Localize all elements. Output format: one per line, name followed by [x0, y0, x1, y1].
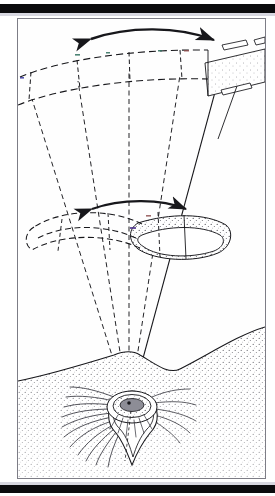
figure-artwork	[18, 19, 265, 478]
upper-sweep-arrow	[91, 29, 214, 40]
burrow-cup-inner	[120, 399, 144, 412]
far-band-divider-2	[77, 60, 80, 89]
figure-page	[0, 0, 275, 496]
far-band-lower-edge	[18, 79, 208, 105]
far-band-colour-flecks	[20, 50, 189, 79]
plate-left-margin	[13, 18, 17, 479]
plate-right-margin	[266, 18, 275, 479]
top-bar-shadow	[0, 13, 275, 16]
near-ring-dashed-lower	[32, 237, 140, 250]
near-ring-divider-2	[108, 213, 110, 250]
far-dashed-band	[18, 37, 265, 139]
bottom-black-bar	[0, 485, 275, 493]
near-ring-dashed-mid	[38, 228, 136, 239]
near-elliptical-ring	[26, 212, 230, 259]
near-ring-dashed-cap	[26, 227, 34, 250]
top-black-bar	[0, 4, 275, 13]
far-band-divider-4	[180, 50, 182, 79]
near-ring-divider-1	[58, 219, 62, 251]
convergence-vertex	[127, 401, 131, 405]
lower-sweep-arrow	[92, 201, 186, 209]
far-band-divider-1	[29, 72, 31, 100]
near-ring-dashed-upper	[34, 213, 142, 227]
figure-plate	[17, 18, 266, 479]
